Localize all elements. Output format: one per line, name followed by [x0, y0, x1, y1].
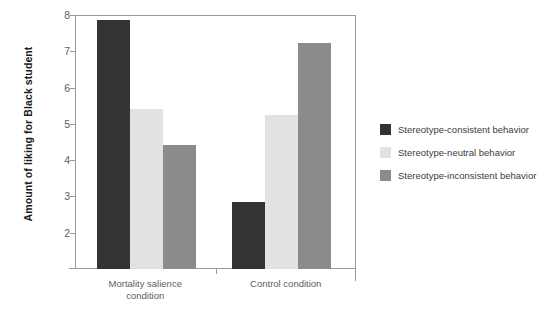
bar	[232, 202, 265, 269]
bar	[97, 20, 130, 269]
x-axis-group-label-line: Control condition	[216, 278, 357, 290]
y-axis-title: Amount of liking for Black student	[22, 34, 34, 234]
y-tick-mark	[70, 196, 76, 197]
bar	[130, 109, 163, 269]
y-tick-mark	[70, 160, 76, 161]
y-tick-label: 5	[64, 118, 70, 130]
plot-top-border	[75, 15, 356, 16]
legend-swatch-icon-neutral	[380, 147, 391, 158]
bar	[265, 115, 298, 269]
y-tick-label: 2	[64, 227, 70, 239]
legend-label-consistent: Stereotype-consistent behavior	[398, 124, 529, 135]
x-axis-group-label: Mortality saliencecondition	[75, 278, 216, 302]
y-tick-mark	[70, 15, 76, 16]
x-axis-group-label-line: condition	[75, 290, 216, 302]
bar-chart: Amount of liking for Black student 23456…	[0, 0, 558, 318]
plot-right-border	[355, 15, 356, 281]
y-tick-mark	[70, 124, 76, 125]
legend-item-inconsistent: Stereotype-inconsistent behavior	[380, 164, 536, 187]
x-group-separator	[355, 268, 356, 274]
y-axis-line	[75, 15, 76, 269]
y-tick-label: 7	[64, 45, 70, 57]
legend-label-inconsistent: Stereotype-inconsistent behavior	[398, 170, 536, 181]
x-axis-group-label: Control condition	[216, 278, 357, 290]
legend-label-neutral: Stereotype-neutral behavior	[398, 147, 515, 158]
plot-area: 2345678 Mortality salienceconditionContr…	[75, 15, 356, 269]
y-tick-label: 6	[64, 82, 70, 94]
y-tick-label: 8	[64, 9, 70, 21]
y-tick-mark	[70, 51, 76, 52]
bar	[298, 43, 331, 269]
legend: Stereotype-consistent behavior Stereotyp…	[380, 118, 536, 187]
y-tick-mark	[70, 233, 76, 234]
y-tick-label: 4	[64, 154, 70, 166]
legend-swatch-icon-inconsistent	[380, 170, 391, 181]
x-group-separator	[216, 268, 217, 274]
bar	[163, 145, 196, 269]
legend-swatch-icon-consistent	[380, 124, 391, 135]
x-axis-group-label-line: Mortality salience	[75, 278, 216, 290]
legend-item-consistent: Stereotype-consistent behavior	[380, 118, 536, 141]
y-tick-mark	[70, 88, 76, 89]
y-tick-label: 3	[64, 190, 70, 202]
legend-item-neutral: Stereotype-neutral behavior	[380, 141, 536, 164]
